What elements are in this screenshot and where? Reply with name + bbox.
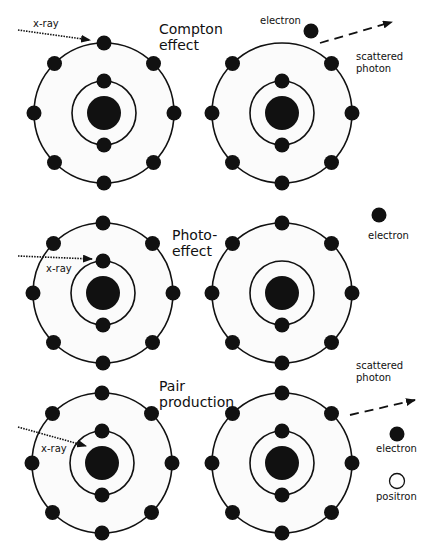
photo-xray-label: x-ray xyxy=(46,264,72,275)
pair-scattered-photon-arrow xyxy=(350,400,415,415)
pair-photon-label-line2: photon xyxy=(356,373,391,384)
pair-xray-label: x-ray xyxy=(41,444,67,455)
pair-atom-before xyxy=(25,386,180,541)
photo-ejected-electron xyxy=(372,208,387,223)
compton-scattered-photon-arrow xyxy=(320,22,392,43)
compton-title-line2: effect xyxy=(159,38,199,53)
compton-photon-label-line2: photon xyxy=(356,64,391,75)
pair-title-line2: production xyxy=(159,395,234,410)
photo-electron-label: electron xyxy=(368,231,409,242)
compton-xray-label: x-ray xyxy=(33,19,59,30)
pair-photon-label-line1: scattered xyxy=(356,361,403,372)
photo-atom-before xyxy=(26,216,181,371)
pair-positron-label: positron xyxy=(376,492,417,503)
compton-atom-after xyxy=(205,43,360,191)
compton-ejected-electron xyxy=(304,24,319,39)
compton-photon-label-line1: scattered xyxy=(356,52,403,63)
photo-atom-after xyxy=(205,216,360,371)
compton-title-line1: Compton xyxy=(159,22,223,37)
interaction-diagram xyxy=(0,0,434,557)
photo-title-line2: effect xyxy=(172,244,212,259)
photo-title-line1: Photo- xyxy=(172,228,217,243)
compton-atom-before xyxy=(27,36,182,191)
pair-title-line1: Pair xyxy=(159,379,185,394)
pair-positron xyxy=(390,474,405,489)
compton-xray-arrow xyxy=(18,30,90,40)
pair-electron-label: electron xyxy=(376,444,417,455)
compton-electron-label: electron xyxy=(260,16,301,27)
pair-electron xyxy=(390,427,405,442)
